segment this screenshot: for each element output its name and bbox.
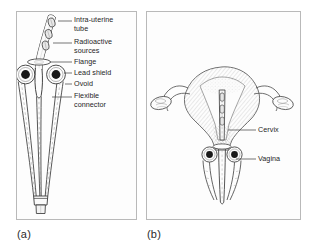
callout-cervix: Cervix bbox=[258, 126, 279, 135]
callout-intra-uterine-tube: Intra-uterine tube bbox=[74, 16, 113, 33]
callout-lead-shield: Lead shield bbox=[74, 69, 111, 78]
callout-flexible-connector: Flexible connector bbox=[74, 92, 106, 109]
callout-vagina: Vagina bbox=[258, 155, 280, 164]
callout-flange: Flange bbox=[74, 58, 96, 67]
panel-b-caption: (b) bbox=[147, 228, 161, 240]
panel-b-frame bbox=[146, 11, 301, 220]
callout-radioactive-sources: Radioactive sources bbox=[74, 38, 112, 55]
callout-ovoid: Ovoid bbox=[74, 80, 93, 89]
figure-root: Intra-uterine tube Radioactive sources F… bbox=[0, 0, 315, 249]
panel-a-caption: (a) bbox=[17, 228, 31, 240]
